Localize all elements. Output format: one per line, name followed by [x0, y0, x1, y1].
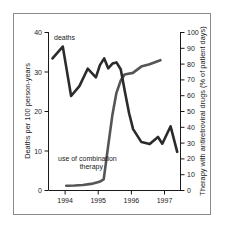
y2-axis-title: Therapy with antiretroviral drugs (% of … [198, 26, 207, 195]
right-tick-label-0: 0 [187, 187, 191, 194]
y-axis-title: Deaths per 100 person-years [23, 63, 32, 159]
right-tick-label-50: 50 [187, 108, 195, 115]
left-tick-label-20: 20 [34, 108, 42, 115]
x-tick-label-1994: 1994 [57, 197, 73, 204]
annotation-deaths: deaths [54, 34, 76, 41]
x-tick-label-1996: 1996 [124, 197, 140, 204]
right-tick-label-80: 80 [187, 61, 195, 68]
right-axis-ticks [181, 33, 185, 191]
series-group [53, 47, 178, 186]
axes-group [49, 32, 182, 191]
x-axis-ticks [65, 191, 164, 195]
annotation-therapy-line1: use of combination [58, 155, 117, 162]
left-tick-label-0: 0 [38, 187, 42, 194]
right-tick-label-20: 20 [187, 155, 195, 162]
left-tick-label-30: 30 [34, 69, 42, 76]
left-axis-tick-labels: 40 30 20 10 0 [34, 29, 42, 194]
x-tick-label-1997: 1997 [157, 197, 173, 204]
annotation-therapy-line2: therapy [80, 163, 104, 171]
right-tick-label-90: 90 [187, 45, 195, 52]
figure-container: 40 30 20 10 0 100 90 80 70 60 50 [0, 0, 226, 230]
right-tick-label-30: 30 [187, 140, 195, 147]
right-tick-label-70: 70 [187, 76, 195, 83]
right-tick-label-60: 60 [187, 92, 195, 99]
left-tick-label-40: 40 [34, 29, 42, 36]
right-tick-label-40: 40 [187, 124, 195, 131]
line-chart: 40 30 20 10 0 100 90 80 70 60 50 [0, 0, 226, 230]
left-axis-ticks [45, 33, 49, 191]
x-axis-tick-labels: 1994 1995 1996 1997 [57, 197, 172, 204]
x-tick-label-1995: 1995 [90, 197, 106, 204]
left-tick-label-10: 10 [34, 148, 42, 155]
right-tick-label-10: 10 [187, 171, 195, 178]
